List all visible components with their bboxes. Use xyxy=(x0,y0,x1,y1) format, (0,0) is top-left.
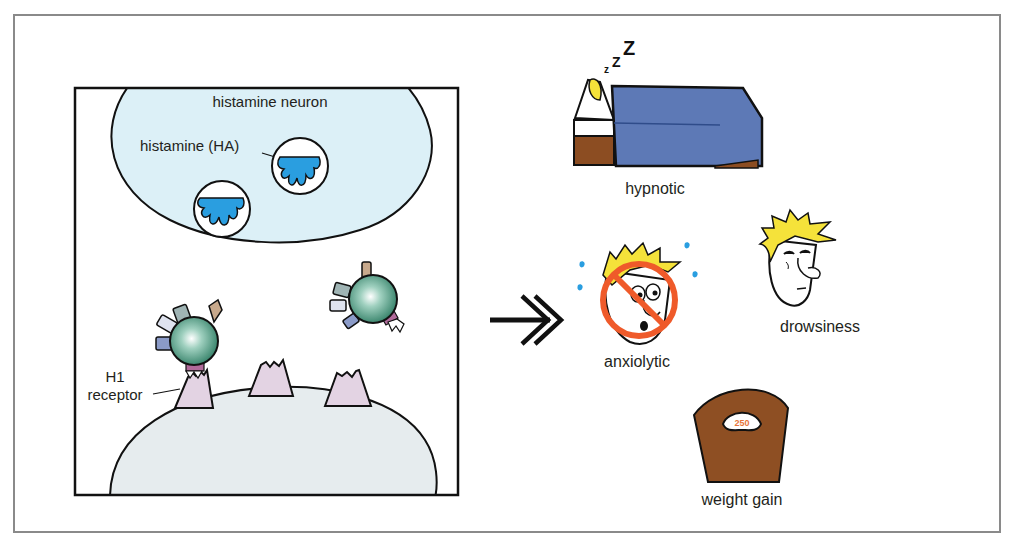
sleep-z-small: z xyxy=(604,64,609,75)
figure: histamine neuron histamine (HA) H1 recep… xyxy=(0,0,1013,541)
vesicle xyxy=(272,138,328,194)
sleep-z-large: Z xyxy=(623,37,635,59)
hypnotic-label: hypnotic xyxy=(625,180,685,197)
effect-weight-gain: 250 weight gain xyxy=(694,390,788,508)
vesicle xyxy=(194,181,250,237)
drowsiness-label: drowsiness xyxy=(780,318,860,335)
weight-gain-label: weight gain xyxy=(701,491,783,508)
histamine-neuron-label: histamine neuron xyxy=(212,93,327,110)
histamine-label: histamine (HA) xyxy=(140,137,239,154)
scale-reading: 250 xyxy=(734,418,749,428)
sleep-z-medium: Z xyxy=(612,54,621,70)
bathroom-scale-icon: 250 xyxy=(694,390,788,482)
receptor-label: receptor xyxy=(87,386,142,403)
anxiolytic-label: anxiolytic xyxy=(604,353,670,370)
h1-label: H1 xyxy=(105,368,124,385)
